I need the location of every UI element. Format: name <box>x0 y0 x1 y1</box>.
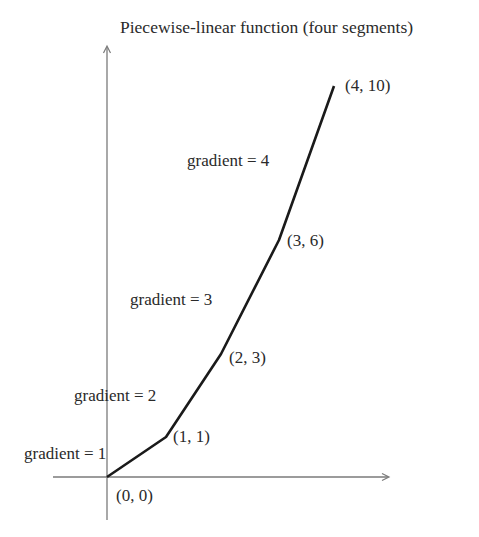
figure-title: Piecewise-linear function (four segments… <box>120 19 413 37</box>
point-label-0: (0, 0) <box>116 487 153 504</box>
point-label-4: (4, 10) <box>345 77 390 94</box>
piecewise-linear-figure: Piecewise-linear function (four segments… <box>0 0 479 537</box>
point-label-1: (1, 1) <box>173 428 210 445</box>
point-label-3: (3, 6) <box>287 232 324 249</box>
point-label-2: (2, 3) <box>229 349 266 366</box>
piecewise-curve <box>107 86 334 477</box>
segment-label-1: gradient = 1 <box>24 445 106 462</box>
segment-label-3: gradient = 3 <box>130 291 212 308</box>
segment-label-4: gradient = 4 <box>187 152 269 169</box>
segment-label-2: gradient = 2 <box>74 387 156 404</box>
